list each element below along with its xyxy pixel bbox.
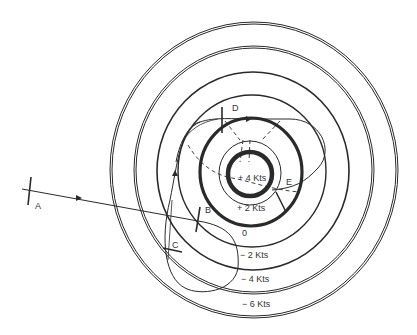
point-label-b: B: [205, 205, 211, 215]
ring-label-minus-4: − 4 Kts: [241, 274, 269, 284]
ring-label-minus-6: − 6 Kts: [242, 299, 270, 309]
direction-arrows: [76, 116, 252, 201]
ring-minus-2: [157, 72, 349, 270]
ring-label-minus-2: − 2 Kts: [240, 250, 268, 260]
wind-ring-diagram: [0, 0, 417, 335]
point-label-d: D: [232, 103, 239, 113]
ring-label-zero: 0: [242, 228, 247, 238]
ring-label-plus-4: + 4 Kts: [238, 173, 266, 183]
ring-label-plus-2: + 2 Kts: [237, 203, 265, 213]
point-label-c: C: [172, 240, 179, 250]
point-label-a: A: [35, 201, 41, 211]
point-label-e: E: [286, 177, 292, 187]
